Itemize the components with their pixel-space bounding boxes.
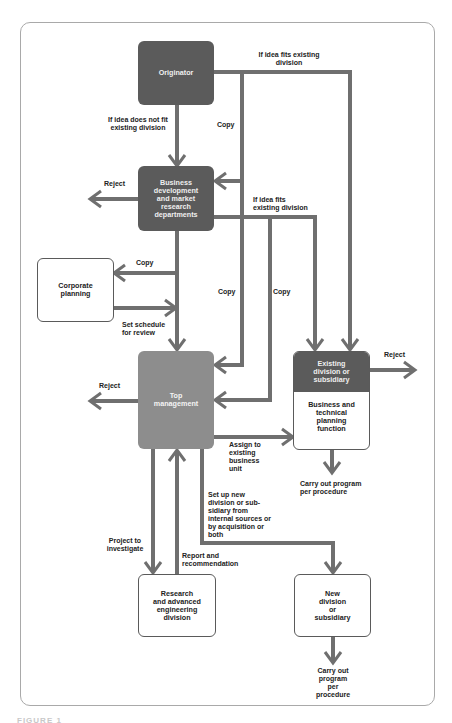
node-business-development: Business development and market research… xyxy=(138,166,214,231)
edge-fits-existing-mid xyxy=(214,217,315,348)
connectors xyxy=(0,0,452,723)
label-copy-3: Copy xyxy=(273,288,291,296)
label-not-fit: If idea does not fit existing division xyxy=(99,116,177,132)
node-corporate-planning: Corporate planning xyxy=(37,258,114,322)
label-project: Project to investigate xyxy=(102,537,148,553)
existing-division-header: Existing division or subsidiary xyxy=(294,352,369,392)
label-reject-existing: Reject xyxy=(384,351,405,359)
label-set-up-new: Set up new division or sub- sidiary from… xyxy=(208,491,271,539)
node-research: Research and advanced engineering divisi… xyxy=(138,574,216,637)
existing-division-body: Business and technical planning function xyxy=(294,392,369,433)
label-copy-1: Copy xyxy=(217,121,235,129)
label-copy-2: Copy xyxy=(218,288,236,296)
label-set-schedule: Set schedule for review xyxy=(122,321,165,337)
label-report: Report and recommendation xyxy=(182,552,238,568)
label-carry-out-existing: Carry out program per procedure xyxy=(300,480,361,496)
node-new-division: New division or subsidiary xyxy=(294,574,371,637)
label-reject-top: Reject xyxy=(99,382,120,390)
node-existing-division: Existing division or subsidiary Business… xyxy=(293,351,370,450)
label-fits-existing-mid: If idea fits existing division xyxy=(253,196,308,212)
label-fits-existing-top: If idea fits existing division xyxy=(247,51,331,67)
node-originator: Originator xyxy=(138,41,214,105)
label-carry-out-new: Carry out program per procedure xyxy=(303,667,363,699)
label-assign: Assign to existing business unit xyxy=(229,441,261,473)
node-top-management: Top management xyxy=(138,351,214,449)
label-reject-busdev: Reject xyxy=(104,180,125,188)
label-copy-corporate: Copy xyxy=(136,259,154,267)
figure-caption: FIGURE 1 xyxy=(17,716,62,723)
